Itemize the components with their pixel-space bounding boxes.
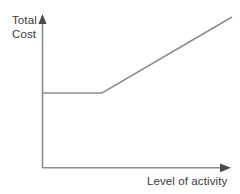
y-axis-label-line-1: Total <box>12 13 37 27</box>
x-axis-label: Level of activity <box>147 174 227 188</box>
y-axis-label: Total Cost <box>12 13 37 41</box>
arrow-up-icon <box>38 14 46 24</box>
y-axis-label-line-2: Cost <box>12 27 37 41</box>
chart-screenshot: Total Cost Level of activity <box>0 0 240 194</box>
arrow-right-icon <box>220 163 231 172</box>
cost-line-series <box>43 17 233 93</box>
